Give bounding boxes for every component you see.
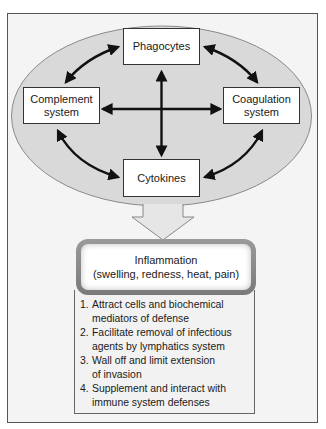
node-phagocytes-label: Phagocytes [133,40,190,53]
node-coagulation-label-1: Coagulation [232,93,291,106]
inflammation-subtitle: (swelling, redness, heat, pain) [93,267,239,281]
function-item: 1. Attract cells and biochemicalmediator… [80,298,250,326]
node-cytokines-label: Cytokines [137,172,185,185]
node-coagulation-label-2: system [244,106,279,119]
node-cytokines: Cytokines [123,159,200,197]
inflammation-box: Inflammation (swelling, redness, heat, p… [76,239,256,295]
node-complement-system: Complement system [23,87,100,124]
function-number: 3. [80,354,92,382]
function-text: immune system defenses [92,397,210,408]
functions-list: 1. Attract cells and biochemicalmediator… [74,290,255,414]
function-item: 3. Wall off and limit extensionof invasi… [80,354,250,382]
function-number: 1. [80,298,92,326]
function-number: 2. [80,326,92,354]
function-item: 4. Supplement and interact withimmune sy… [80,382,250,410]
down-arrow-icon [132,204,194,240]
node-complement-label-2: system [44,106,79,119]
node-complement-label-1: Complement [30,93,92,106]
inflammation-title: Inflammation [135,253,198,267]
function-text: Supplement and interact with [92,383,226,394]
function-text: mediators of defense [92,313,189,324]
node-phagocytes: Phagocytes [123,28,200,65]
function-text: Attract cells and biochemical [92,299,224,310]
node-coagulation-system: Coagulation system [223,87,300,124]
function-number: 4. [80,382,92,410]
function-text: of invasion [92,369,142,380]
function-text: agents by lymphatics system [92,341,225,352]
function-item: 2. Facilitate removal of infectiousagent… [80,326,250,354]
function-text: Facilitate removal of infectious [92,327,232,338]
function-text: Wall off and limit extension [92,355,215,366]
